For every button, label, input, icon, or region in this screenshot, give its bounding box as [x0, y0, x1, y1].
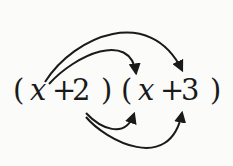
arrow-2-to-x-icon: [86, 113, 134, 129]
arrows-layer: [0, 0, 233, 166]
arrow-x-to-x-icon: [49, 50, 136, 84]
arrow-2-to-3-icon: [86, 113, 182, 148]
foil-diagram: ( x + 2 ) ( x + 3 ): [0, 0, 233, 166]
arrow-x-to-3-icon: [45, 33, 182, 82]
